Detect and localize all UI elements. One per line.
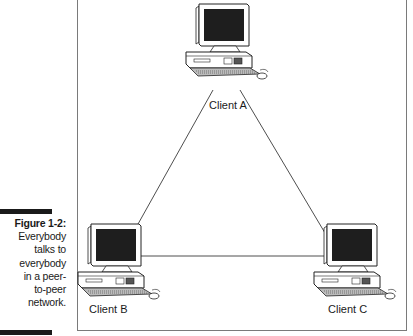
desktop-computer-icon [314,224,396,299]
node-label-client-b: Client B [89,303,128,315]
edge-a-b [133,90,213,233]
desktop-computer-icon [186,4,268,79]
node-label-client-c: Client C [328,303,367,315]
edge-a-c [240,90,325,233]
node-label-client-a: Client A [209,99,247,111]
connection-lines [133,90,325,256]
network-diagram [0,0,413,336]
desktop-computer-icon [78,224,160,299]
